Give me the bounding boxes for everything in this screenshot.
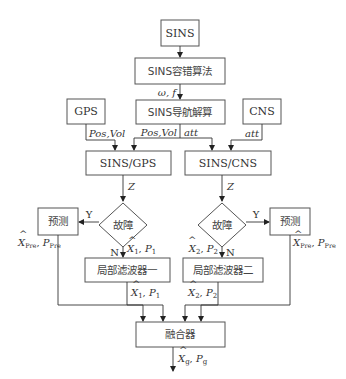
label-cns-att: att [245, 128, 260, 139]
label-z-left: Z [127, 181, 136, 192]
node-ft-label: SINS容错算法 [148, 65, 212, 77]
edge-nav-to-sinscns [180, 138, 212, 150]
label-nav-pos-vol: Pos,Vol [140, 127, 177, 138]
label-nav-att: att [184, 127, 199, 138]
node-predict-left: 预测 [38, 208, 78, 235]
svg-text:^: ^ [128, 234, 136, 245]
node-gps: GPS [67, 99, 105, 124]
node-filter1-label: 局部滤波器一 [97, 264, 158, 276]
svg-text:^: ^ [189, 278, 197, 289]
svg-text:^: ^ [179, 344, 187, 355]
label-x1-in: X1, P1 ^ [126, 234, 156, 256]
svg-text:^: ^ [294, 228, 302, 239]
node-cns: CNS [243, 99, 281, 124]
node-cns-label: CNS [249, 105, 275, 118]
label-z-right: Z [226, 181, 235, 192]
node-sinsgps-label: SINS/GPS [100, 157, 156, 170]
edge-nav-to-sinsgps [134, 138, 180, 150]
svg-text:^: ^ [188, 234, 196, 245]
node-sins-cns: SINS/CNS [185, 151, 271, 175]
label-gps-pos-vol: Pos,Vol [88, 128, 125, 139]
node-nav-label: SINS导航解算 [148, 106, 212, 118]
decision-fault-right: 故障 [198, 203, 246, 247]
label-y-right: Y [252, 209, 260, 220]
node-sins-gps: SINS/GPS [86, 151, 171, 175]
node-fusion-label: 融合器 [165, 328, 196, 340]
decision-fault-left: 故障 [99, 203, 147, 247]
decision-fault-left-label: 故障 [113, 219, 134, 231]
label-omega-f: ω, f [158, 87, 179, 98]
flowchart: SINS SINS容错算法 ω, f SINS导航解算 GPS CNS Pos,… [0, 0, 346, 379]
node-gps-label: GPS [74, 105, 98, 118]
node-predict-left-label: 预测 [48, 215, 68, 227]
node-fault-tolerant-algorithm: SINS容错算法 [135, 58, 225, 84]
node-nav-solution: SINS导航解算 [136, 100, 225, 124]
label-y-left: Y [85, 209, 93, 220]
node-sinscns-label: SINS/CNS [199, 157, 257, 170]
node-predict-right-label: 预测 [280, 215, 300, 227]
node-filter2-label: 局部滤波器二 [193, 264, 253, 276]
svg-text:^: ^ [132, 278, 140, 289]
node-sins-label: SINS [165, 27, 194, 40]
node-sins: SINS [161, 20, 199, 46]
label-n-right: N [226, 247, 235, 258]
label-pre-right: XPre, PPre ^ [292, 228, 336, 250]
decision-fault-right-label: 故障 [212, 219, 233, 231]
node-predict-right: 预测 [270, 208, 310, 235]
node-local-filter-1: 局部滤波器一 [85, 258, 170, 282]
svg-text:^: ^ [19, 228, 27, 239]
label-n-left: N [110, 247, 119, 258]
